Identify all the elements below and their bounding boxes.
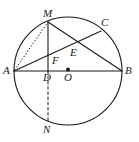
vertex-label-C: C — [101, 17, 108, 28]
segment-MB — [48, 22, 122, 71]
vertex-label-N: N — [43, 124, 50, 135]
vertex-label-M: M — [43, 8, 52, 19]
vertex-label-B: B — [125, 65, 132, 76]
geometry-diagram-canvas: M C E F A B D O N — [0, 0, 139, 142]
vertex-label-E: E — [70, 47, 77, 58]
vertex-label-F: F — [52, 55, 59, 66]
vertex-label-A: A — [3, 65, 10, 76]
vertex-label-D: D — [43, 72, 51, 83]
vertex-label-O: O — [64, 72, 72, 83]
